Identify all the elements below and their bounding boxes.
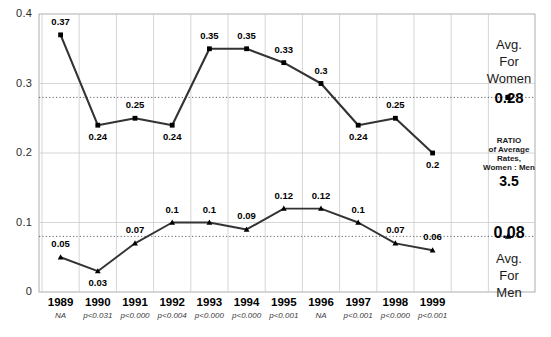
point-label-men-1997: 0.1 bbox=[341, 204, 375, 215]
point-label-men-1995: 0.12 bbox=[267, 190, 301, 201]
avg-women-label-line2: For bbox=[470, 55, 548, 68]
avg-men-value: 0.08 bbox=[470, 224, 548, 242]
marker-women-1997 bbox=[356, 123, 361, 128]
marker-women-1998 bbox=[393, 116, 398, 121]
marker-women-1994 bbox=[244, 46, 249, 51]
y-tick-label: 0.1 bbox=[2, 216, 32, 228]
marker-women-1989 bbox=[58, 32, 63, 37]
point-label-men-1998: 0.07 bbox=[378, 224, 412, 235]
point-label-men-1990: 0.03 bbox=[81, 277, 115, 288]
x-axis-pvalue-1999: p<0.001 bbox=[409, 311, 457, 320]
marker-women-1992 bbox=[170, 123, 175, 128]
point-label-women-1989: 0.37 bbox=[44, 16, 78, 27]
marker-men-1989 bbox=[58, 254, 64, 259]
x-axis-year-1999: 1999 bbox=[409, 296, 457, 308]
ratio-label-line4: Women : Men bbox=[470, 163, 548, 173]
line-chart: 00.10.20.30.4 1989NA1990p<0.0311991p<0.0… bbox=[0, 0, 551, 337]
avg-men-label-line1: Avg. bbox=[470, 252, 548, 265]
avg-women-label-line3: Women bbox=[470, 72, 548, 85]
point-label-men-1989: 0.05 bbox=[44, 238, 78, 249]
point-label-women-1990: 0.24 bbox=[81, 131, 115, 142]
point-label-women-1991: 0.25 bbox=[118, 99, 152, 110]
avg-women-label-line1: Avg. bbox=[470, 38, 548, 51]
point-label-men-1999: 0.06 bbox=[416, 231, 450, 242]
point-label-women-1996: 0.3 bbox=[304, 65, 338, 76]
y-tick-label: 0 bbox=[2, 285, 32, 297]
marker-women-1995 bbox=[281, 60, 286, 65]
point-label-men-1993: 0.1 bbox=[192, 204, 226, 215]
point-label-women-1995: 0.33 bbox=[267, 44, 301, 55]
y-tick-label: 0.3 bbox=[2, 77, 32, 89]
avg-women-value: 0.28 bbox=[470, 89, 548, 106]
point-label-women-1997: 0.24 bbox=[341, 131, 375, 142]
point-label-women-1993: 0.35 bbox=[192, 30, 226, 41]
marker-women-1990 bbox=[95, 123, 100, 128]
point-label-women-1999: 0.2 bbox=[416, 159, 450, 170]
point-label-men-1994: 0.09 bbox=[230, 210, 264, 221]
avg-men-label-line2: For bbox=[470, 269, 548, 282]
marker-women-1999 bbox=[430, 151, 435, 156]
marker-women-1996 bbox=[319, 81, 324, 86]
cut-off-caption bbox=[0, 329, 551, 337]
y-tick-label: 0.2 bbox=[2, 146, 32, 158]
marker-women-1991 bbox=[133, 116, 138, 121]
point-label-men-1991: 0.07 bbox=[118, 224, 152, 235]
y-tick-label: 0.4 bbox=[2, 7, 32, 19]
point-label-women-1998: 0.25 bbox=[378, 99, 412, 110]
ratio-value: 3.5 bbox=[470, 173, 548, 189]
point-label-men-1996: 0.12 bbox=[304, 190, 338, 201]
marker-women-1993 bbox=[207, 46, 212, 51]
point-label-men-1992: 0.1 bbox=[155, 204, 189, 215]
point-label-women-1994: 0.35 bbox=[230, 30, 264, 41]
avg-men-label-line3: Men bbox=[470, 286, 548, 299]
point-label-women-1992: 0.24 bbox=[155, 131, 189, 142]
